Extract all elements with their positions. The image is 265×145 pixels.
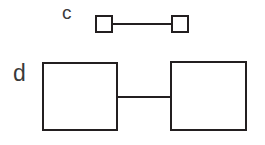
row-label-c: c xyxy=(62,3,72,22)
connector-edge-c xyxy=(112,23,172,25)
square-node-c-left xyxy=(95,15,113,33)
row-label-d: d xyxy=(13,62,26,85)
square-node-d-left xyxy=(42,62,118,131)
connector-edge-d xyxy=(117,96,171,98)
square-node-c-right xyxy=(171,15,189,33)
square-node-d-right xyxy=(170,61,247,131)
diagram-canvas: c d xyxy=(0,0,265,145)
